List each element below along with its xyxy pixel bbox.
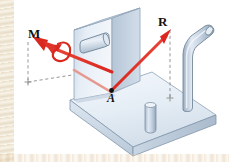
page-margin-left <box>0 0 14 162</box>
vector-M-arrowhead-inner <box>43 41 57 55</box>
label-point-a: A <box>107 92 115 104</box>
bent-pipe <box>183 25 214 111</box>
figure-canvas <box>0 0 229 162</box>
page-margin-bottom <box>0 154 229 162</box>
label-resultant-vector: R <box>158 15 167 28</box>
short-peg-body <box>145 105 156 133</box>
mechanics-figure: M R A <box>0 0 229 162</box>
short-peg-top <box>145 103 156 108</box>
projection-cross-left <box>25 79 32 86</box>
dashed-projection-left-foot <box>28 75 72 82</box>
short-peg <box>145 103 156 134</box>
bent-pipe-body <box>183 25 214 111</box>
vertical-plate-side <box>112 8 140 93</box>
label-moment-vector: M <box>28 27 40 40</box>
